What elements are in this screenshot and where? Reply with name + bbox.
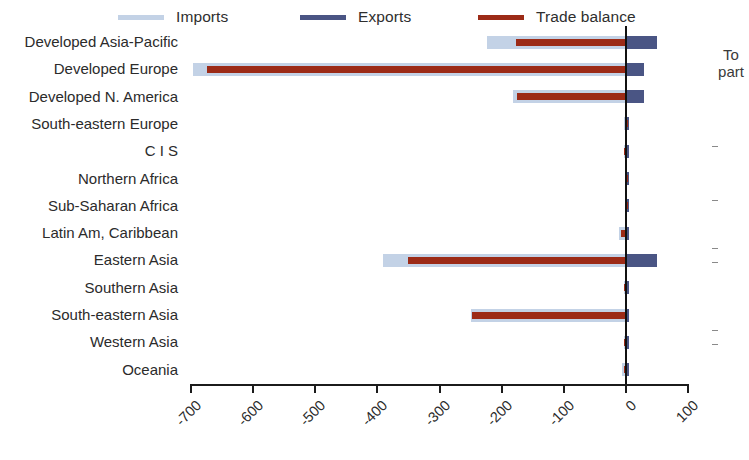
axis-tick xyxy=(625,384,627,393)
bar-trade-balance xyxy=(472,312,626,319)
category-label: South-eastern Europe xyxy=(31,116,178,132)
zero-axis-line xyxy=(625,26,627,388)
secondary-axis-tick xyxy=(712,200,718,201)
axis-tick xyxy=(376,384,378,393)
legend-label-exports: Exports xyxy=(358,8,411,26)
legend-swatch-exports xyxy=(300,15,346,20)
legend-item-trade-balance: Trade balance xyxy=(478,4,636,30)
side-annotation-line-2: part xyxy=(686,63,749,80)
axis-tick-label: -200 xyxy=(460,397,515,452)
axis-tick xyxy=(563,384,565,393)
category-label: South-eastern Asia xyxy=(51,307,178,323)
axis-tick-label: -600 xyxy=(211,397,266,452)
legend-swatch-imports xyxy=(118,15,164,20)
axis-tick xyxy=(190,384,192,393)
category-label: C I S xyxy=(145,143,178,159)
axis-tick-label: -500 xyxy=(273,397,328,452)
secondary-axis-tick xyxy=(712,248,718,249)
bar-trade-balance xyxy=(516,39,626,46)
plot-area: Developed Asia-PacificDeveloped EuropeDe… xyxy=(0,30,718,390)
category-label: Oceania xyxy=(122,362,178,378)
axis-tick xyxy=(687,384,689,393)
bar-trade-balance xyxy=(517,93,626,100)
bar-exports xyxy=(626,90,644,103)
secondary-axis-tick xyxy=(712,146,718,147)
legend-label-trade-balance: Trade balance xyxy=(536,8,636,26)
bar-exports xyxy=(626,36,657,49)
axis-tick xyxy=(314,384,316,393)
category-label: Sub-Saharan Africa xyxy=(48,198,178,214)
bars-area xyxy=(186,30,718,390)
axis-tick-label: 100 xyxy=(646,397,701,452)
bar-trade-balance xyxy=(207,66,626,73)
bar-exports xyxy=(626,63,644,76)
category-label: Latin Am, Caribbean xyxy=(42,225,178,241)
bar-exports xyxy=(626,254,657,267)
secondary-axis-tick xyxy=(712,330,718,331)
axis-tick-label: -100 xyxy=(522,397,577,452)
category-label: Developed N. America xyxy=(29,89,178,105)
legend-item-exports: Exports xyxy=(300,4,411,30)
side-annotation: To part xyxy=(686,46,749,80)
category-label: Developed Europe xyxy=(54,61,178,77)
legend-item-imports: Imports xyxy=(118,4,228,30)
axis-tick-label: -300 xyxy=(398,397,453,452)
category-label: Developed Asia-Pacific xyxy=(25,34,178,50)
category-label: Western Asia xyxy=(90,334,178,350)
legend-label-imports: Imports xyxy=(176,8,228,26)
axis-tick-label: -700 xyxy=(149,397,204,452)
value-axis: -700-600-500-400-300-200-1000100 xyxy=(186,384,718,460)
axis-tick-label: 0 xyxy=(584,397,639,452)
category-label: Southern Asia xyxy=(85,280,178,296)
axis-tick xyxy=(252,384,254,393)
bar-trade-balance xyxy=(408,257,626,264)
chart-legend: Imports Exports Trade balance xyxy=(0,4,718,30)
category-axis-labels: Developed Asia-PacificDeveloped EuropeDe… xyxy=(0,30,186,390)
axis-tick xyxy=(439,384,441,393)
category-label: Eastern Asia xyxy=(94,252,178,268)
axis-tick-label: -400 xyxy=(336,397,391,452)
legend-swatch-trade-balance xyxy=(478,15,524,20)
secondary-axis-tick xyxy=(712,344,718,345)
side-annotation-line-1: To xyxy=(686,46,749,63)
category-label: Northern Africa xyxy=(78,171,178,187)
secondary-axis-tick xyxy=(712,262,718,263)
axis-tick xyxy=(501,384,503,393)
